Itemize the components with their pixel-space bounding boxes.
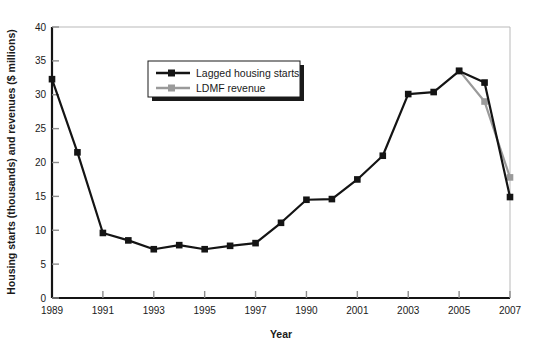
data-point-marker [227, 243, 234, 250]
data-point-marker [125, 237, 132, 244]
data-point-marker [507, 174, 514, 181]
x-tick-label: 2007 [499, 305, 522, 316]
x-tick-label: 1989 [41, 305, 64, 316]
y-tick-label: 40 [35, 22, 47, 33]
data-point-marker [278, 220, 285, 227]
legend-label: LDMF revenue [196, 82, 266, 94]
chart-legend: Lagged housing starts LDMF revenue [148, 61, 304, 101]
legend-label: Lagged housing starts [196, 67, 299, 79]
data-point-marker [456, 68, 463, 75]
data-point-marker [507, 194, 514, 201]
data-point-marker [303, 196, 310, 203]
x-tick-label: 1995 [194, 305, 217, 316]
x-tick-label: 2003 [397, 305, 420, 316]
data-point-marker [74, 149, 81, 156]
x-tick-label: 2005 [448, 305, 471, 316]
x-axis-title: Year [270, 328, 292, 340]
chart-background [0, 0, 535, 347]
data-point-marker [405, 91, 412, 98]
y-tick-label: 20 [35, 157, 47, 168]
x-tick-label: 1991 [92, 305, 115, 316]
y-tick-label: 15 [35, 191, 47, 202]
chart-figure: 0510152025303540 19891991199319951997199… [0, 0, 535, 347]
x-tick-label: 1990 [295, 305, 318, 316]
legend-marker-square-icon [168, 70, 175, 77]
data-point-marker [150, 246, 157, 253]
y-tick-label: 10 [35, 225, 47, 236]
y-tick-label: 30 [35, 89, 47, 100]
legend-marker-square-icon [168, 85, 175, 92]
data-point-marker [100, 230, 107, 237]
line-chart: 0510152025303540 19891991199319951997199… [0, 0, 535, 347]
x-tick-label: 1997 [244, 305, 267, 316]
data-point-marker [481, 79, 488, 86]
x-tick-label: 1993 [143, 305, 166, 316]
data-point-marker [329, 196, 336, 203]
y-tick-label: 25 [35, 123, 47, 134]
y-axis-title: Housing starts (thousands) and revenues … [5, 29, 17, 294]
x-tick-label: 2001 [346, 305, 369, 316]
data-point-marker [201, 246, 208, 253]
data-point-marker [354, 176, 361, 183]
data-point-marker [252, 240, 259, 247]
y-tick-label: 5 [40, 259, 46, 270]
data-point-marker [176, 242, 183, 249]
data-point-marker [379, 152, 386, 159]
y-tick-label: 0 [40, 293, 46, 304]
y-tick-label: 35 [35, 55, 47, 66]
data-point-marker [49, 76, 56, 83]
data-point-marker [481, 98, 488, 105]
data-point-marker [430, 89, 437, 96]
